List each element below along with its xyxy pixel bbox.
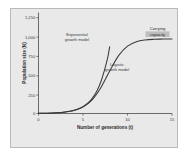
y-tick-group: 1,250 1,000 750 500 250 0 bbox=[25, 15, 39, 116]
chart-canvas: 1,250 1,000 750 500 250 0 0 5 10 15 bbox=[0, 0, 185, 159]
exponential-annotation-line2: growth model bbox=[65, 37, 90, 42]
logistic-annotation-line1: Logistic bbox=[110, 62, 124, 67]
logistic-growth-curve bbox=[39, 39, 173, 113]
y-tick-label: 1,000 bbox=[25, 35, 36, 40]
y-tick-label: 750 bbox=[28, 54, 36, 59]
x-tick-label: 15 bbox=[170, 117, 175, 122]
y-tick-label: 500 bbox=[28, 73, 36, 78]
y-tick-label: 1,250 bbox=[25, 15, 36, 20]
x-tick-group: 0 5 10 15 bbox=[37, 114, 175, 122]
carrying-capacity-line2: capacity bbox=[150, 32, 166, 37]
carrying-capacity-line1: Carrying bbox=[150, 26, 166, 31]
logistic-annotation-line2: growth model bbox=[105, 67, 130, 72]
y-tick-label: 0 bbox=[33, 111, 36, 116]
y-tick-label: 250 bbox=[28, 93, 36, 98]
exponential-annotation-line1: Exponential bbox=[66, 32, 87, 37]
y-axis-title: Population size (N) bbox=[22, 42, 27, 84]
x-axis-title: Number of generations (t) bbox=[77, 125, 134, 130]
exponential-growth-curve bbox=[39, 47, 110, 114]
figure-root: 1,250 1,000 750 500 250 0 0 5 10 15 bbox=[0, 0, 185, 159]
x-tick-label: 5 bbox=[82, 117, 85, 122]
exponential-growth-annotation: Exponential growth model bbox=[65, 32, 90, 42]
carrying-capacity-annotation: Carrying capacity bbox=[146, 26, 170, 37]
x-tick-label: 10 bbox=[125, 117, 130, 122]
x-tick-label: 0 bbox=[37, 117, 40, 122]
logistic-growth-annotation: Logistic growth model bbox=[105, 62, 130, 72]
